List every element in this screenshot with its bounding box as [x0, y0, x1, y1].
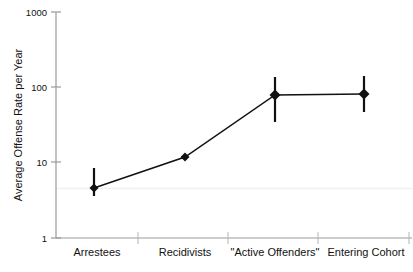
y-axis-title: Average Offense Rate per Year [12, 48, 24, 201]
x-category-label-recidivists: Recidivists [159, 246, 212, 258]
series-line [94, 94, 364, 188]
data-point-entering-cohort [359, 89, 370, 100]
x-category-label-active-offenders: "Active Offenders" [231, 246, 320, 258]
data-point-active-offenders [270, 90, 281, 101]
y-tick-label-10: 10 [36, 157, 47, 168]
chart-figure: 1000 100 10 1 Arrestees Recidivists "Act… [0, 0, 413, 272]
y-tick-label-1000: 1000 [26, 7, 47, 18]
x-category-label-entering-cohort: Entering Cohort [327, 246, 404, 258]
data-point-arrestees [90, 184, 99, 193]
data-point-recidivists [181, 153, 190, 162]
x-category-label-arrestees: Arrestees [73, 246, 121, 258]
y-tick-label-1: 1 [42, 233, 47, 244]
y-tick-label-100: 100 [31, 82, 47, 93]
line-chart-canvas: 1000 100 10 1 Arrestees Recidivists "Act… [0, 0, 413, 272]
